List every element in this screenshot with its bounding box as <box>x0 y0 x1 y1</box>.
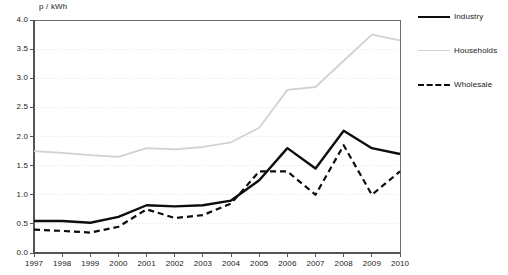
y-tick-label: 3.0 <box>2 73 28 82</box>
y-tick-label: 3.5 <box>2 44 28 53</box>
y-tick-label: 2.5 <box>2 102 28 111</box>
legend-item-industry: Industry <box>418 12 506 46</box>
y-tick-label: 0.5 <box>2 219 28 228</box>
legend-item-wholesale: Wholesale <box>418 80 506 114</box>
legend-item-households: Households <box>418 46 506 80</box>
line-chart: p / kWh 0.00.51.01.52.02.53.03.54.0 1997… <box>0 0 508 275</box>
y-tick-label: 1.0 <box>2 190 28 199</box>
y-tick-label: 4.0 <box>2 15 28 24</box>
y-axis-title: p / kWh <box>39 2 68 11</box>
y-tick-label: 2.0 <box>2 132 28 141</box>
y-tick-label: 1.5 <box>2 161 28 170</box>
legend-swatch-industry <box>418 12 450 22</box>
legend-swatch-households <box>418 46 450 56</box>
legend-label-industry: Industry <box>454 12 483 21</box>
y-tick-label: 0.0 <box>2 248 28 257</box>
x-tick-label: 2010 <box>383 259 417 268</box>
chart-legend: Industry Households Wholesale <box>418 12 506 114</box>
legend-swatch-wholesale <box>418 80 450 90</box>
legend-label-wholesale: Wholesale <box>454 80 492 89</box>
legend-label-households: Households <box>454 46 497 55</box>
